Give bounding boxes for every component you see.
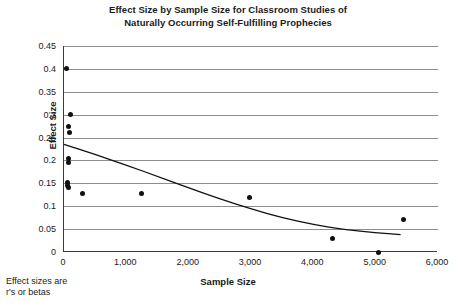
x-tick-label-6: 6,000 — [414, 257, 456, 267]
y-tick-label-9: 0.45 — [10, 41, 56, 51]
x-tick-label-0: 0 — [40, 257, 86, 267]
y-tick-label-8: 0.4 — [10, 64, 56, 74]
chart-title-line-2: Naturally Occurring Self-Fulfilling Prop… — [0, 17, 456, 30]
x-tick-label-5: 5,000 — [352, 257, 398, 267]
x-tick-label-2: 2,000 — [165, 257, 211, 267]
y-tick-label-3: 0.15 — [10, 178, 56, 188]
y-tick-label-0: 0 — [10, 247, 56, 257]
chart-title-line-1: Effect Size by Sample Size for Classroom… — [0, 4, 456, 17]
trend-curve — [64, 46, 438, 252]
chart-title: Effect Size by Sample Size for Classroom… — [0, 4, 456, 29]
plot-area — [63, 46, 437, 252]
y-tick-label-4: 0.2 — [10, 155, 56, 165]
x-tick-label-1: 1,000 — [102, 257, 148, 267]
x-tick-label-3: 3,000 — [227, 257, 273, 267]
footnote: Effect sizes are r's or betas — [6, 276, 67, 298]
y-tick-label-6: 0.3 — [10, 110, 56, 120]
footnote-line-1: Effect sizes are — [6, 276, 67, 287]
y-tick-label-2: 0.1 — [10, 201, 56, 211]
y-tick-label-7: 0.35 — [10, 87, 56, 97]
x-tick-label-4: 4,000 — [289, 257, 335, 267]
y-tick-label-1: 0.05 — [10, 224, 56, 234]
chart-container: Effect Size by Sample Size for Classroom… — [0, 0, 456, 303]
y-axis-title: Effect Size — [47, 66, 58, 186]
x-axis-title: Sample Size — [0, 276, 456, 287]
data-point — [247, 195, 252, 200]
data-point — [330, 236, 335, 241]
footnote-line-2: r's or betas — [6, 287, 67, 298]
data-point — [376, 250, 381, 255]
y-tick-label-5: 0.25 — [10, 133, 56, 143]
